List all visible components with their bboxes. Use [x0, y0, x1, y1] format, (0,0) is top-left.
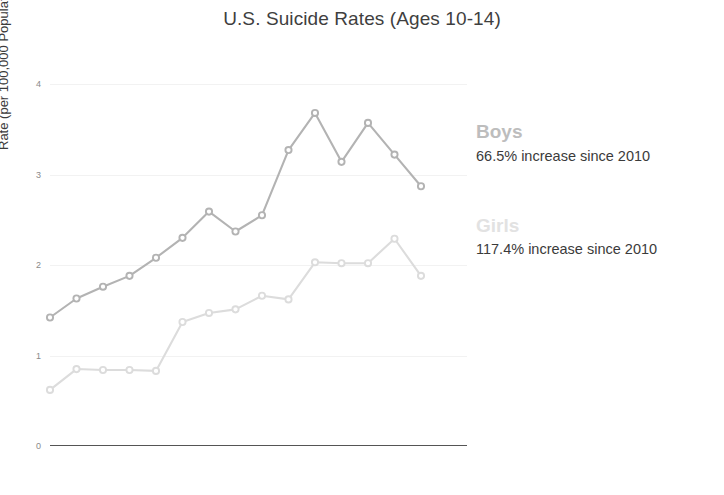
- data-point: [47, 314, 53, 320]
- data-point: [73, 295, 79, 301]
- data-point: [179, 319, 185, 325]
- data-point: [206, 310, 212, 316]
- data-point: [391, 236, 397, 242]
- series-boys: [47, 110, 424, 321]
- y-tick-label: 1: [36, 351, 41, 361]
- data-point: [285, 147, 291, 153]
- data-point: [418, 273, 424, 279]
- data-point: [153, 255, 159, 261]
- data-point: [126, 367, 132, 373]
- data-point: [365, 120, 371, 126]
- data-point: [312, 259, 318, 265]
- data-point: [338, 159, 344, 165]
- data-point: [365, 260, 371, 266]
- data-point: [285, 296, 291, 302]
- data-point: [179, 235, 185, 241]
- data-point: [232, 228, 238, 234]
- data-point: [153, 368, 159, 374]
- data-point: [338, 260, 344, 266]
- chart-title: U.S. Suicide Rates (Ages 10-14): [0, 8, 724, 30]
- y-axis-title: Rate (per 100,000 Population): [0, 0, 11, 150]
- y-tick-label: 3: [36, 170, 41, 180]
- data-point: [47, 387, 53, 393]
- data-point: [418, 183, 424, 189]
- legend-entry-boys: Boys66.5% increase since 2010: [476, 120, 720, 166]
- y-tick-label: 2: [36, 260, 41, 270]
- legend-entry-label: Boys: [476, 120, 720, 144]
- y-tick-label: 4: [36, 79, 41, 89]
- data-point: [259, 293, 265, 299]
- data-point: [391, 151, 397, 157]
- data-point: [73, 366, 79, 372]
- data-point: [259, 212, 265, 218]
- legend-entry-girls: Girls117.4% increase since 2010: [476, 214, 720, 260]
- data-point: [312, 110, 318, 116]
- legend-entry-note: 66.5% increase since 2010: [476, 147, 720, 166]
- plot-area: 01234 2008200920102011201220132014201520…: [50, 84, 467, 446]
- data-point: [100, 284, 106, 290]
- y-tick-label: 0: [36, 441, 41, 451]
- data-point: [232, 306, 238, 312]
- data-point: [126, 273, 132, 279]
- chart-container: U.S. Suicide Rates (Ages 10-14) Rate (pe…: [0, 0, 724, 495]
- legend: Boys66.5% increase since 2010Girls117.4%…: [476, 120, 720, 307]
- legend-entry-label: Girls: [476, 214, 720, 238]
- data-point: [206, 209, 212, 215]
- series-layer: [50, 84, 467, 446]
- legend-entry-note: 117.4% increase since 2010: [476, 240, 720, 259]
- data-point: [100, 367, 106, 373]
- series-girls: [47, 236, 424, 393]
